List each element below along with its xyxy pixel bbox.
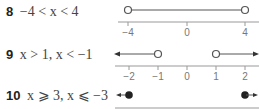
tick-label: 0 xyxy=(184,27,190,38)
open-circle-icon xyxy=(242,7,249,14)
tick-label: 2 xyxy=(242,71,248,82)
tick-label: −4 xyxy=(122,27,134,38)
tick-label: 1 xyxy=(213,71,219,82)
number-line-10 xyxy=(115,91,259,108)
arrow-right-icon xyxy=(253,52,259,57)
number-line-9: −2 −1 0 1 2 xyxy=(114,51,259,83)
open-circle-icon xyxy=(155,51,162,58)
number-lines: −4 0 4 −2 −1 0 1 2 xyxy=(0,0,259,109)
arrow-right-icon xyxy=(253,93,258,97)
tick-label: 4 xyxy=(242,27,248,38)
tick-label: −1 xyxy=(152,71,164,82)
open-circle-icon xyxy=(213,51,220,58)
arrow-left-icon xyxy=(114,52,120,57)
number-line-8: −4 0 4 xyxy=(118,7,259,39)
closed-circle-icon xyxy=(125,91,133,99)
tick-label: 0 xyxy=(184,71,190,82)
tick-label: −2 xyxy=(123,71,135,82)
arrow-left-icon xyxy=(116,93,121,97)
open-circle-icon xyxy=(125,7,132,14)
